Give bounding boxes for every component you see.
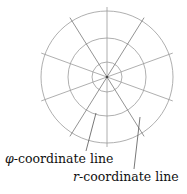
phi-coordinate-label: φ-coordinate line <box>5 151 113 166</box>
leader-line <box>86 113 96 151</box>
origin-point <box>106 76 108 78</box>
polar-coordinate-diagram: φ-coordinate line r-coordinate line <box>0 0 187 194</box>
r-coordinate-label: r-coordinate line <box>73 169 179 184</box>
